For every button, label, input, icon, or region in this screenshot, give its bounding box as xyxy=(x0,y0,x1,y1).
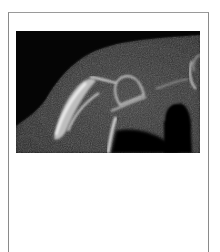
ct-scan-image xyxy=(16,31,200,153)
ct-scan-graphic xyxy=(16,31,200,153)
